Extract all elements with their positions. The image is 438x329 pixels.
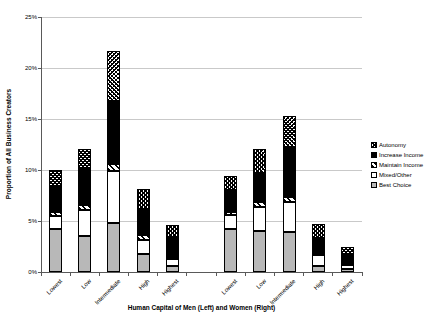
bar-segment-women-low-maintain-income xyxy=(253,202,266,207)
bar-segment-women-highest-increase-income xyxy=(341,254,354,265)
bar-segment-men-high-best-choice xyxy=(137,254,150,272)
bar-segment-men-highest-mixed-other xyxy=(166,259,179,266)
gridline-20% xyxy=(41,68,362,69)
bar-segment-women-high-mixed-other xyxy=(312,255,325,266)
x-category-label-women-lowest: Lowest xyxy=(220,278,238,296)
x-category-label-men-highest: Highest xyxy=(161,278,180,297)
crosshatch-swatch-icon xyxy=(371,142,377,148)
legend-label: Best Choice xyxy=(379,182,411,189)
y-tick-label-0%: 0% xyxy=(17,269,37,276)
legend-label: Increase Income xyxy=(379,152,423,159)
bar-segment-men-highest-increase-income xyxy=(166,237,179,258)
x-axis-title: Human Capital of Men (Left) and Women (R… xyxy=(41,304,362,312)
legend-item-increase-income: Increase Income xyxy=(371,150,423,160)
bar-segment-women-lowest-mixed-other xyxy=(224,215,237,229)
y-tick-label-5%: 5% xyxy=(17,218,37,225)
x-tick-11 xyxy=(362,273,363,276)
x-tick-5 xyxy=(186,273,187,276)
gridline-25% xyxy=(41,17,362,18)
bar-segment-women-intermediate-autonomy xyxy=(283,116,296,147)
legend: AutonomyIncrease IncomeMaintain IncomeMi… xyxy=(371,140,423,190)
legend-item-maintain-income: Maintain Income xyxy=(371,160,423,170)
legend-label: Maintain Income xyxy=(379,162,423,169)
bar-segment-men-lowest-maintain-income xyxy=(49,212,62,216)
bar-segment-women-high-autonomy xyxy=(312,224,325,238)
bar-segment-women-low-mixed-other xyxy=(253,207,266,231)
bar-segment-women-lowest-best-choice xyxy=(224,229,237,272)
y-tick-label-25%: 25% xyxy=(17,14,37,21)
x-tick-3 xyxy=(128,273,129,276)
bar-segment-women-lowest-increase-income xyxy=(224,190,237,211)
bar-segment-men-intermediate-maintain-income xyxy=(107,164,120,171)
bar-segment-men-intermediate-mixed-other xyxy=(107,171,120,223)
x-category-label-men-low: Low xyxy=(80,278,93,291)
bar-segment-men-low-autonomy xyxy=(78,149,91,168)
bar-segment-women-high-increase-income xyxy=(312,238,325,253)
x-tick-2 xyxy=(99,273,100,276)
bar-segment-women-high-best-choice xyxy=(312,266,325,272)
bar-segment-women-low-best-choice xyxy=(253,231,266,272)
bar-segment-men-intermediate-increase-income xyxy=(107,101,120,164)
bar-segment-women-lowest-maintain-income xyxy=(224,212,237,215)
bar-segment-men-high-mixed-other xyxy=(137,240,150,253)
bar-segment-men-intermediate-autonomy xyxy=(107,51,120,101)
x-category-label-men-high: High xyxy=(137,278,151,292)
x-category-label-men-lowest: Lowest xyxy=(45,278,63,296)
bar-segment-women-highest-autonomy xyxy=(341,247,354,254)
bar-segment-men-intermediate-best-choice xyxy=(107,223,120,272)
white-swatch-icon xyxy=(371,172,377,178)
bar-segment-women-highest-best-choice xyxy=(341,269,354,272)
x-category-label-women-intermediate: Intermediate xyxy=(268,278,297,307)
bar-segment-men-low-mixed-other xyxy=(78,210,91,237)
x-axis-line xyxy=(41,272,363,273)
bar-segment-men-high-increase-income xyxy=(137,209,150,236)
bar-segment-women-lowest-autonomy xyxy=(224,176,237,190)
y-tick-label-20%: 20% xyxy=(17,65,37,72)
y-axis-title: Proportion of All Business Creators xyxy=(4,44,14,244)
x-category-label-women-highest: Highest xyxy=(336,278,355,297)
bar-segment-women-intermediate-increase-income xyxy=(283,147,296,197)
y-tick-label-15%: 15% xyxy=(17,116,37,123)
x-category-label-men-intermediate: Intermediate xyxy=(93,278,122,307)
bar-segment-women-high-maintain-income xyxy=(312,254,325,256)
bar-segment-men-high-maintain-income xyxy=(137,235,150,240)
solid-black-swatch-icon xyxy=(371,152,377,158)
x-category-label-women-low: Low xyxy=(255,278,268,291)
x-tick-0 xyxy=(41,273,42,276)
x-tick-4 xyxy=(157,273,158,276)
x-tick-9 xyxy=(303,273,304,276)
bar-segment-men-low-maintain-income xyxy=(78,205,91,210)
bar-segment-men-lowest-mixed-other xyxy=(49,216,62,229)
gridline-15% xyxy=(41,119,362,120)
legend-item-mixed-other: Mixed/Other xyxy=(371,170,423,180)
bar-segment-men-highest-autonomy xyxy=(166,225,179,237)
diagonal-swatch-icon xyxy=(371,162,377,168)
solid-gray-swatch-icon xyxy=(371,182,377,188)
legend-label: Autonomy xyxy=(379,142,406,149)
bar-segment-women-low-increase-income xyxy=(253,173,266,202)
bar-segment-men-low-increase-income xyxy=(78,168,91,205)
bar-segment-women-highest-mixed-other xyxy=(341,265,354,269)
x-category-label-women-high: High xyxy=(313,278,327,292)
y-tick-label-10%: 10% xyxy=(17,167,37,174)
bar-segment-men-highest-best-choice xyxy=(166,266,179,272)
x-tick-8 xyxy=(274,273,275,276)
bar-segment-women-intermediate-maintain-income xyxy=(283,197,296,202)
bar-segment-men-lowest-best-choice xyxy=(49,229,62,272)
x-tick-1 xyxy=(70,273,71,276)
stacked-bar-chart: Proportion of All Business Creators Huma… xyxy=(0,0,438,329)
bar-segment-men-high-autonomy xyxy=(137,189,150,208)
x-tick-7 xyxy=(245,273,246,276)
bar-segment-women-intermediate-best-choice xyxy=(283,232,296,272)
bar-segment-men-lowest-increase-income xyxy=(49,187,62,211)
x-tick-6 xyxy=(216,273,217,276)
legend-item-autonomy: Autonomy xyxy=(371,140,423,150)
y-axis-line xyxy=(41,17,42,272)
bar-segment-women-low-autonomy xyxy=(253,149,266,173)
legend-item-best-choice: Best Choice xyxy=(371,180,423,190)
legend-label: Mixed/Other xyxy=(379,172,412,179)
x-tick-10 xyxy=(332,273,333,276)
bar-segment-men-low-best-choice xyxy=(78,236,91,272)
bar-segment-men-lowest-autonomy xyxy=(49,170,62,187)
bar-segment-women-intermediate-mixed-other xyxy=(283,202,296,233)
